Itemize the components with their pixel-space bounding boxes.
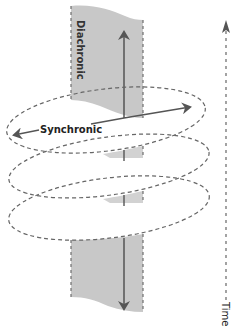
diachronic-panel-bottom xyxy=(71,234,143,312)
time-label: Time xyxy=(220,301,231,326)
diachronic-synchronic-diagram: Time Diachronic xyxy=(0,0,232,329)
diachronic-label: Diachronic xyxy=(75,20,86,80)
synchronic-ellipse-3 xyxy=(5,166,213,250)
diachronic-panel-top: Diachronic xyxy=(71,6,143,118)
synchronic-label: Synchronic xyxy=(40,124,102,135)
diachronic-sliver-1 xyxy=(103,146,143,161)
time-axis: Time xyxy=(220,20,231,326)
synchronic-left-arrow xyxy=(14,130,39,135)
